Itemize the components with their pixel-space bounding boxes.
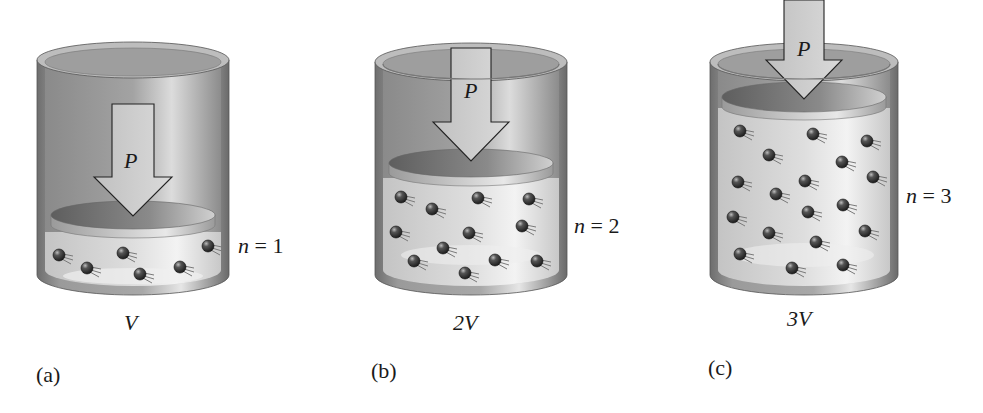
moles-label-b: n = 2	[574, 213, 619, 239]
pressure-label-a: P	[124, 148, 137, 174]
moles-label-c: n = 3	[906, 183, 951, 209]
pressure-label-b: P	[464, 78, 477, 104]
volume-label-a: V	[124, 310, 137, 336]
volume-label-c: 3V	[787, 306, 811, 332]
panel-label-b: (b)	[371, 358, 397, 384]
moles-label-a: n = 1	[238, 233, 283, 259]
panel-label-a: (a)	[36, 362, 60, 388]
volume-label-b: 2V	[453, 310, 477, 336]
diagram-canvas	[0, 0, 983, 413]
pressure-label-c: P	[797, 36, 810, 62]
panel-label-c: (c)	[708, 355, 732, 381]
